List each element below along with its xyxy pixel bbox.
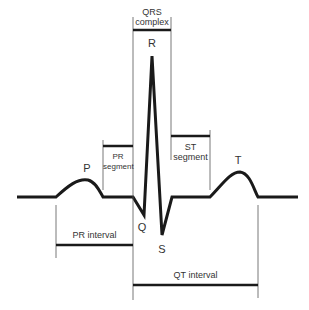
qrs-label: QRS complex xyxy=(133,7,171,27)
pr-segment-label: PR segment xyxy=(103,152,133,172)
pr-interval-label: PR interval xyxy=(56,230,133,240)
ecg-trace xyxy=(17,56,298,235)
st-segment-label: ST segment xyxy=(171,142,210,162)
p-wave-label: P xyxy=(81,163,93,173)
q-wave-label: Q xyxy=(136,222,148,232)
qt-interval-label: QT interval xyxy=(133,270,258,280)
s-wave-label: S xyxy=(156,244,168,254)
t-wave-label: T xyxy=(232,155,244,165)
r-wave-label: R xyxy=(146,38,158,48)
